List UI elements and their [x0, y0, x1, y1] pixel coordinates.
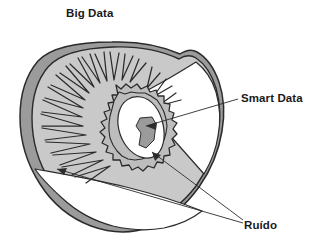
kiwi-cross-section-illustration [0, 0, 318, 252]
diagram-canvas: Big Data Smart Data Ruído [0, 0, 318, 252]
label-big-data: Big Data [66, 8, 113, 20]
label-ruido: Ruído [244, 220, 277, 232]
label-smart-data: Smart Data [241, 93, 303, 105]
